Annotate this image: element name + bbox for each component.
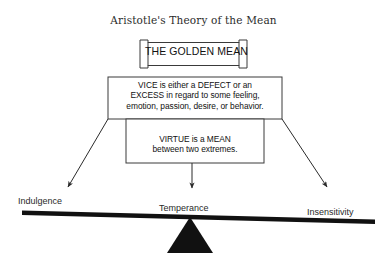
virtue-line-2: between two extremes.	[128, 144, 262, 154]
scale-label-indulgence: Indulgence	[18, 196, 62, 206]
vice-label: VICE is either a DEFECT or an EXCESS in …	[110, 80, 280, 111]
fulcrum-triangle	[167, 217, 213, 253]
diagram-artwork	[0, 0, 387, 265]
diagram-canvas: Aristotle's Theory of the Mean	[0, 0, 387, 265]
vice-line-3: emotion, passion, desire, or behavior.	[110, 101, 280, 111]
golden-mean-label: THE GOLDEN MEAN	[145, 45, 245, 58]
vice-line-2: EXCESS in regard to some feeling,	[110, 90, 280, 100]
scale-label-insensitivity: Insensitivity	[307, 207, 354, 217]
scale-label-temperance: Temperance	[159, 203, 209, 213]
virtue-label: VIRTUE is a MEAN between two extremes.	[128, 134, 262, 155]
vice-line-1: VICE is either a DEFECT or an	[110, 80, 280, 90]
arrow-down-left	[68, 119, 108, 187]
arrow-down-right	[282, 119, 327, 187]
virtue-line-1: VIRTUE is a MEAN	[128, 134, 262, 144]
